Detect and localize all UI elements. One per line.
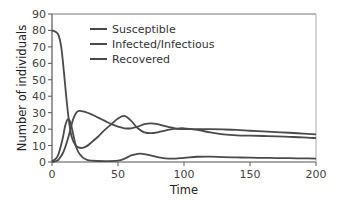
- y-axis-ticks: 0102030405060708090: [32, 8, 52, 169]
- plot-frame: [52, 14, 316, 162]
- infected-line: [52, 119, 316, 161]
- legend-label-recovered: Recovered: [112, 53, 170, 66]
- y-axis-title: Number of individuals: [15, 25, 29, 151]
- x-tick-label: 200: [306, 168, 327, 181]
- y-tick-label: 80: [32, 24, 46, 37]
- x-tick-label: 150: [240, 168, 261, 181]
- y-tick-label: 40: [32, 90, 46, 103]
- x-tick-label: 100: [174, 168, 195, 181]
- x-axis-ticks: 050100150200: [49, 162, 327, 181]
- y-tick-label: 70: [32, 41, 46, 54]
- y-tick-label: 30: [32, 107, 46, 120]
- y-tick-label: 60: [32, 57, 46, 70]
- legend-label-infected: Infected/Infectious: [112, 38, 215, 51]
- y-tick-label: 0: [39, 156, 46, 169]
- sir-model-chart: 0102030405060708090 050100150200 Suscept…: [0, 0, 341, 204]
- x-tick-label: 0: [49, 168, 56, 181]
- y-tick-label: 20: [32, 123, 46, 136]
- x-tick-label: 50: [111, 168, 125, 181]
- x-axis-title: Time: [169, 183, 198, 197]
- y-tick-label: 10: [32, 140, 46, 153]
- y-tick-label: 90: [32, 8, 46, 21]
- legend-label-susceptible: Susceptible: [112, 23, 176, 36]
- y-tick-label: 50: [32, 74, 46, 87]
- legend: Susceptible Infected/Infectious Recovere…: [90, 23, 215, 66]
